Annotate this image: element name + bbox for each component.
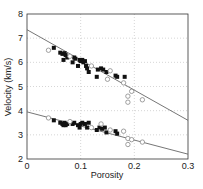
filled-square-marker	[83, 122, 87, 126]
open-circle-marker	[68, 119, 72, 123]
open-circle-marker	[121, 129, 125, 133]
open-circle-marker	[140, 98, 144, 102]
open-circle-marker	[46, 48, 50, 52]
x-tick-label: 0.1	[74, 161, 87, 171]
y-tick-label: 3	[18, 130, 23, 140]
scatter-chart: 00.10.20.3 2345678 Porosity Velocity (km…	[0, 0, 203, 189]
filled-square-marker	[61, 58, 65, 62]
x-tick-label: 0.3	[182, 161, 195, 171]
filled-square-marker	[83, 59, 87, 63]
y-axis-label: Velocity (km/s)	[3, 58, 13, 117]
y-tick-label: 5	[18, 82, 23, 92]
open-circle-marker	[99, 122, 103, 126]
filled-square-marker	[78, 126, 82, 130]
filled-square-marker	[115, 132, 119, 136]
open-circle-marker	[68, 54, 72, 58]
filled-square-marker	[85, 66, 89, 70]
x-tick-label: 0	[24, 161, 29, 171]
trend-lines	[27, 30, 188, 154]
x-tick-label: 0.2	[128, 161, 141, 171]
y-tick-label: 7	[18, 33, 23, 43]
data-points	[46, 46, 144, 147]
open-circle-marker	[89, 64, 93, 68]
open-circle-marker	[46, 116, 50, 120]
filled-square-marker	[76, 64, 80, 68]
open-circle-marker	[140, 140, 144, 144]
filled-square-marker	[52, 46, 56, 50]
open-circle-marker	[121, 81, 125, 85]
filled-square-marker	[115, 75, 119, 79]
open-circle-marker	[105, 77, 109, 81]
y-axis-ticks: 2345678	[18, 9, 23, 164]
filled-square-marker	[87, 70, 91, 74]
open-circle-marker	[89, 125, 93, 129]
y-tick-label: 4	[18, 106, 23, 116]
filled-square-marker	[52, 118, 56, 122]
y-tick-label: 8	[18, 9, 23, 19]
y-tick-label: 2	[18, 154, 23, 164]
open-circle-marker	[126, 94, 130, 98]
trend-line	[27, 30, 188, 121]
open-circle-marker	[108, 69, 112, 73]
y-tick-label: 6	[18, 57, 23, 67]
filled-square-marker	[103, 126, 107, 130]
grid-lines	[27, 14, 188, 159]
open-circle-marker	[126, 142, 130, 146]
filled-square-marker	[72, 121, 76, 125]
filled-square-marker	[87, 121, 91, 125]
filled-square-marker	[95, 75, 99, 79]
open-circle-marker	[129, 89, 133, 93]
filled-square-marker	[61, 123, 65, 127]
open-circle-marker	[108, 128, 112, 132]
open-circle-marker	[126, 100, 130, 104]
filled-square-marker	[85, 126, 89, 130]
filled-square-marker	[73, 57, 77, 61]
filled-square-marker	[71, 60, 75, 64]
open-circle-marker	[129, 137, 133, 141]
filled-square-marker	[123, 75, 127, 79]
x-axis-label: Porosity	[91, 170, 124, 180]
